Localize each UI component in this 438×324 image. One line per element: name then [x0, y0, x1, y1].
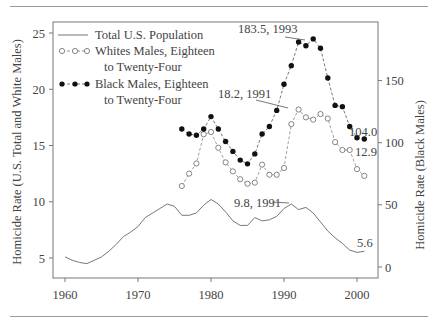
annotation-black-peak-leader [285, 37, 305, 40]
data-point-filled [186, 131, 191, 136]
annotations: 183.5, 1993 18.2, 1991 9.8, 1991 104.0 1… [218, 22, 377, 250]
data-point-filled [194, 133, 199, 138]
data-point-filled [245, 161, 250, 166]
data-point-open [179, 183, 184, 188]
series-total-us [65, 200, 364, 264]
plot-frame [53, 22, 378, 278]
legend-white-label-2: to Twenty-Four [104, 60, 183, 74]
legend-black-swatch [59, 81, 89, 86]
right-axis-title: Homicide Rate (Black Males) [413, 100, 427, 250]
left-tick-label: 15 [33, 139, 46, 153]
data-point-open [318, 111, 323, 116]
data-point-filled [223, 139, 228, 144]
data-point-open [201, 132, 206, 137]
right-y-axis: 050100150 [378, 74, 404, 274]
data-point-filled [281, 82, 286, 87]
data-point-open [245, 181, 250, 186]
left-tick-label: 10 [33, 195, 46, 209]
left-y-axis: 510152025 [33, 27, 54, 266]
data-point-open [187, 171, 192, 176]
annotation-black-peak: 183.5, 1993 [238, 22, 297, 36]
data-point-filled [216, 126, 221, 131]
x-axis: 19601970198019902000 [53, 278, 370, 302]
data-point-filled [289, 63, 294, 68]
annotation-white-peak: 18.2, 1991 [218, 87, 271, 101]
data-point-filled [230, 149, 235, 154]
right-tick-label: 0 [385, 261, 391, 275]
data-point-filled [238, 157, 243, 162]
annotation-white-end: 12.9 [355, 145, 377, 159]
data-point-open [296, 107, 301, 112]
x-tick-label: 2000 [345, 288, 370, 302]
data-point-filled [259, 131, 264, 136]
data-point-filled [179, 126, 184, 131]
legend-white-label-1: Whites Males, Eighteen [95, 44, 216, 58]
x-tick-label: 1990 [272, 288, 297, 302]
data-point-filled [303, 43, 308, 48]
data-point-open [340, 147, 345, 152]
data-point-filled [325, 75, 330, 80]
x-tick-label: 1970 [126, 288, 151, 302]
series-white-males [179, 107, 367, 189]
data-point-open [194, 161, 199, 166]
legend-black-label-1: Black Males, Eighteen [95, 77, 209, 91]
left-axis-title: Homicide Rate (U.S. Total and White Male… [10, 39, 24, 265]
left-tick-label: 5 [39, 252, 45, 266]
right-tick-label: 150 [385, 74, 404, 88]
data-point-open [274, 172, 279, 177]
data-point-open [216, 145, 221, 150]
x-tick-label: 1960 [53, 288, 78, 302]
data-point-filled [332, 103, 337, 108]
homicide-rate-chart: 510152025 050100150 19601970198019902000… [0, 0, 438, 324]
data-point-open [289, 122, 294, 127]
data-point-filled [208, 114, 213, 119]
data-point-filled [267, 124, 272, 129]
data-point-open [347, 147, 352, 152]
legend-total-label: Total U.S. Population [95, 28, 204, 42]
annotation-black-end: 104.0 [349, 125, 377, 139]
data-point-filled [252, 151, 257, 156]
annotation-total-peak: 9.8, 1991 [234, 196, 281, 210]
data-point-filled [274, 108, 279, 113]
data-point-open [230, 169, 235, 174]
data-point-filled [340, 104, 345, 109]
data-point-open [362, 173, 367, 178]
left-tick-label: 25 [33, 27, 46, 41]
data-point-filled [201, 126, 206, 131]
data-point-open [223, 160, 228, 165]
data-point-open [208, 129, 213, 134]
annotation-white-peak-leader [256, 100, 288, 108]
data-point-open [311, 117, 316, 122]
data-point-open [333, 140, 338, 145]
legend: Total U.S. Population Whites Males, Eigh… [58, 28, 216, 107]
right-tick-label: 50 [385, 198, 398, 212]
data-point-filled [296, 39, 301, 44]
annotation-total-end: 5.6 [357, 236, 373, 250]
data-point-open [325, 116, 330, 121]
legend-white-swatch [59, 48, 89, 53]
data-point-open [281, 165, 286, 170]
left-tick-label: 20 [33, 83, 46, 97]
data-point-open [260, 162, 265, 167]
legend-black-label-2: to Twenty-Four [104, 93, 183, 107]
x-tick-label: 1980 [199, 288, 224, 302]
data-point-open [303, 115, 308, 120]
data-point-open [252, 180, 257, 185]
data-point-filled [311, 36, 316, 41]
right-tick-label: 100 [385, 136, 404, 150]
data-point-filled [318, 46, 323, 51]
data-point-open [267, 172, 272, 177]
data-point-open [238, 177, 243, 182]
data-point-open [354, 167, 359, 172]
